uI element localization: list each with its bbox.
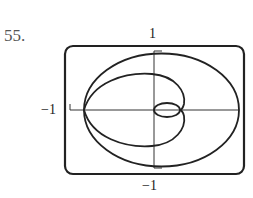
polar-graph	[0, 0, 253, 198]
